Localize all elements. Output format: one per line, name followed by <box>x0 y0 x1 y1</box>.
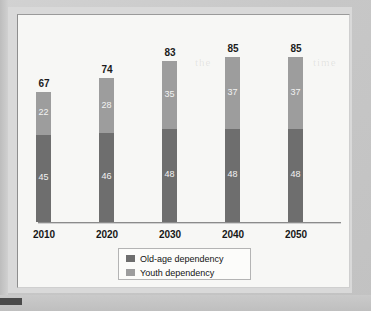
bar-total-2050: 85 <box>276 43 316 54</box>
legend-item-old-age: Old-age dependency <box>126 252 250 265</box>
bar-value-old-age-2040: 48 <box>225 169 240 179</box>
x-tick-2030: 2030 <box>146 229 194 240</box>
bar-value-youth-2030: 35 <box>162 89 177 99</box>
bar-value-old-age-2020: 46 <box>99 171 114 181</box>
legend-label-youth: Youth dependency <box>140 268 214 278</box>
page-edge-shade-bottom <box>0 295 371 311</box>
bar-total-2030: 83 <box>150 47 190 58</box>
bar-segment-youth-2020: 28 <box>99 78 114 132</box>
bar-2050: 3748 <box>288 57 303 222</box>
chart-legend: Old-age dependency Youth dependency <box>118 248 251 280</box>
bar-segment-old-age-2020: 46 <box>99 133 114 222</box>
bar-value-youth-2050: 37 <box>288 87 303 97</box>
bar-segment-youth-2030: 35 <box>162 61 177 129</box>
bar-segment-old-age-2030: 48 <box>162 129 177 222</box>
bar-value-youth-2020: 28 <box>99 100 114 110</box>
legend-swatch-youth <box>126 269 135 276</box>
legend-item-youth: Youth dependency <box>126 266 250 279</box>
bar-segment-old-age-2040: 48 <box>225 129 240 222</box>
bar-value-old-age-2050: 48 <box>288 169 303 179</box>
bar-segment-youth-2010: 22 <box>36 92 51 135</box>
legend-label-old-age: Old-age dependency <box>140 254 224 264</box>
legend-swatch-old-age <box>126 255 135 262</box>
x-tick-2010: 2010 <box>20 229 68 240</box>
bar-segment-old-age-2010: 45 <box>36 135 51 222</box>
bar-value-youth-2040: 37 <box>225 87 240 97</box>
bar-value-old-age-2010: 45 <box>36 172 51 182</box>
bar-value-old-age-2030: 48 <box>162 169 177 179</box>
bar-2010: 2245 <box>36 92 51 222</box>
bar-segment-old-age-2050: 48 <box>288 129 303 222</box>
x-axis-line-shadow <box>38 223 341 224</box>
bar-2030: 3548 <box>162 61 177 222</box>
bar-total-2010: 67 <box>24 78 64 89</box>
bar-segment-youth-2040: 37 <box>225 57 240 129</box>
x-tick-2040: 2040 <box>209 229 257 240</box>
scan-ghost-text-a: the <box>195 56 211 68</box>
bar-value-youth-2010: 22 <box>36 107 51 117</box>
bar-2040: 3748 <box>225 57 240 222</box>
figure-background: the time 224567284674354883374885374885 … <box>0 0 371 311</box>
x-tick-2050: 2050 <box>272 229 320 240</box>
bar-total-2040: 85 <box>213 43 253 54</box>
scan-ghost-text-b: time <box>313 56 337 68</box>
scan-corner-artifact <box>0 298 22 305</box>
bar-segment-youth-2050: 37 <box>288 57 303 129</box>
page-edge-shade-left <box>0 0 8 311</box>
plot-area: the time 224567284674354883374885374885 … <box>17 14 350 288</box>
bar-2020: 2846 <box>99 78 114 222</box>
x-tick-2020: 2020 <box>83 229 131 240</box>
bar-total-2020: 74 <box>87 64 127 75</box>
